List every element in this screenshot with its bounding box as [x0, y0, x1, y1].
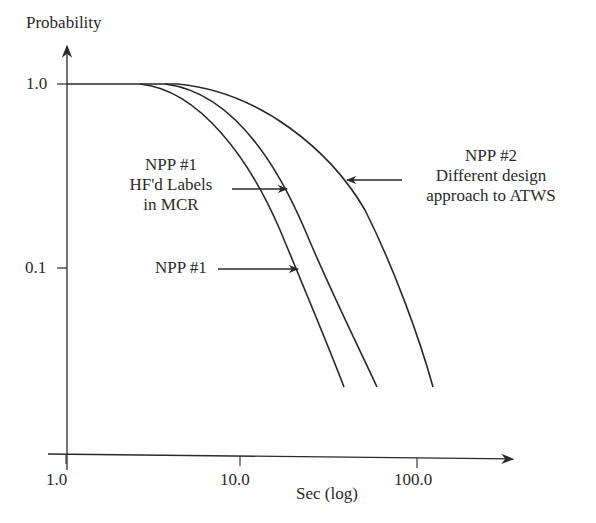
y-tick-label-01: 0.1	[25, 258, 46, 278]
annotation-hf-line3: in MCR	[112, 195, 230, 215]
x-axis	[48, 454, 513, 459]
curve-npp2	[165, 84, 433, 387]
annotation-npp2-line1: NPP #2	[406, 146, 576, 166]
x-tick-label-1: 1.0	[46, 470, 67, 490]
annotation-npp2: NPP #2 Different design approach to ATWS	[406, 146, 576, 206]
curve-npp1-hf-labels	[140, 84, 377, 387]
annotation-hf-line2: HF'd Labels	[112, 175, 230, 195]
y-axis-label: Probability	[26, 13, 102, 33]
curve-npp1	[67, 84, 344, 387]
annotation-npp2-line2: Different design	[406, 166, 576, 186]
annotation-hf-line1: NPP #1	[112, 155, 230, 175]
x-tick-label-10: 10.0	[220, 470, 250, 490]
annotation-npp1: NPP #1	[155, 258, 207, 278]
x-axis-label: Sec (log)	[296, 484, 358, 504]
probability-chart	[0, 0, 596, 523]
annotation-npp1-hf-labels: NPP #1 HF'd Labels in MCR	[112, 155, 230, 215]
y-tick-label-1: 1.0	[26, 74, 47, 94]
annotation-npp2-line3: approach to ATWS	[406, 186, 576, 206]
x-tick-label-100: 100.0	[394, 470, 432, 490]
